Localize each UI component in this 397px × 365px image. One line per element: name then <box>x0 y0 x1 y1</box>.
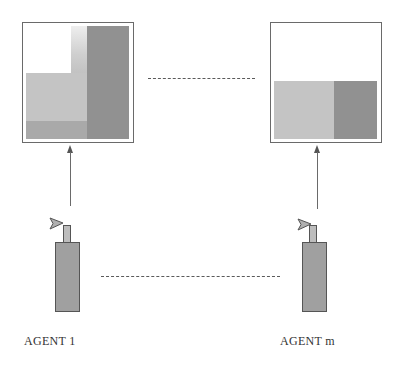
agent-m-label: AGENT m <box>280 334 335 349</box>
arrow-shaft-agent-1 <box>70 152 71 206</box>
environment-panel-agent-m <box>270 22 382 143</box>
env-region-light-left <box>274 81 334 139</box>
bottle-neck <box>309 225 317 243</box>
env-region-dark-column <box>87 26 129 139</box>
top-ellipsis-dashed-line <box>148 78 255 79</box>
env-region-mid-band <box>26 121 87 139</box>
spray-bottle-icon <box>302 242 327 312</box>
spray-bottle-icon <box>55 242 80 312</box>
bottle-neck <box>63 225 71 243</box>
env-region-fade-strip <box>71 26 87 73</box>
env-region-dark-right <box>334 81 377 139</box>
env-region-light <box>26 73 87 121</box>
environment-panel-agent-1 <box>22 22 134 143</box>
env-region-white-top <box>274 26 377 81</box>
env-region-white <box>26 26 71 73</box>
agent-1-label: AGENT 1 <box>24 334 76 349</box>
bottom-ellipsis-dashed-line <box>101 276 280 277</box>
arrow-shaft-agent-m <box>317 152 318 209</box>
